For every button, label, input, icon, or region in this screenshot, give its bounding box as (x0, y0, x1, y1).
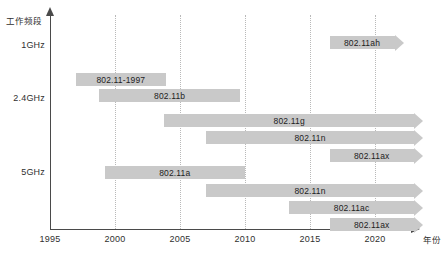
bar-arrow-icon (414, 130, 423, 146)
bar-arrow-icon (414, 113, 423, 129)
bar-label: 802.11ah (344, 38, 380, 48)
y-tick-label-1GHz: 1GHz (21, 40, 45, 50)
y-axis-tick-labels: 1GHz2.4GHz5GHz (0, 0, 45, 264)
bar-label: 802.11g (274, 116, 305, 126)
timeline-bar[interactable]: 802.11ax (330, 218, 415, 231)
x-tick-label-2010: 2010 (235, 234, 256, 244)
timeline-bar[interactable]: 802.11n (206, 131, 414, 144)
timeline-bar[interactable]: 802.11ac (289, 201, 414, 214)
timeline-bar[interactable]: 802.11a (105, 166, 245, 179)
wifi-standards-timeline-chart: 工作频段 年份 199520002005201020152020 1GHz2.4… (0, 0, 446, 264)
x-tick-label-2005: 2005 (170, 234, 191, 244)
bar-arrow-icon (414, 217, 423, 233)
bar-label: 802.11n (294, 186, 325, 196)
bar-label: 802.11-1997 (96, 75, 145, 85)
gridline-2000 (115, 15, 116, 229)
x-axis-title: 年份 (423, 233, 441, 245)
x-tick-label-2000: 2000 (105, 234, 126, 244)
timeline-bar[interactable]: 802.11ax (330, 149, 415, 162)
y-tick-label-2.4GHz: 2.4GHz (13, 93, 45, 103)
x-tick-label-2015: 2015 (300, 234, 321, 244)
y-axis-arrow-icon (46, 7, 54, 16)
timeline-bar[interactable]: 802.11ah (330, 36, 395, 49)
y-tick-label-5GHz: 5GHz (21, 167, 45, 177)
bar-label: 802.11ac (334, 203, 370, 213)
bar-label: 802.11a (159, 168, 190, 178)
bar-arrow-icon (414, 183, 423, 199)
bar-arrow-icon (414, 148, 423, 164)
bar-arrow-icon (395, 35, 404, 51)
bar-label: 802.11ax (354, 151, 390, 161)
bar-label: 802.11b (154, 91, 185, 101)
y-axis-line (50, 14, 51, 230)
timeline-bar[interactable]: 802.11b (99, 89, 239, 102)
bar-label: 802.11n (294, 133, 325, 143)
bar-arrow-icon (414, 200, 423, 216)
x-tick-label-2020: 2020 (365, 234, 386, 244)
timeline-bar[interactable]: 802.11g (164, 114, 414, 127)
bar-label: 802.11ax (354, 220, 390, 230)
timeline-bar[interactable]: 802.11-1997 (76, 73, 166, 86)
timeline-bar[interactable]: 802.11n (206, 184, 414, 197)
